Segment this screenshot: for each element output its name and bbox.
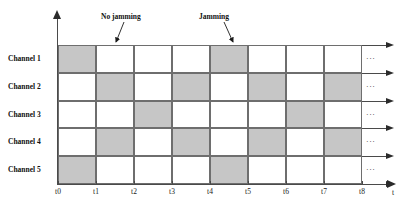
grid-cell-idle [248,101,286,129]
grid-cell-idle [96,156,134,184]
grid-cell-idle [96,45,134,73]
grid-cell-idle [248,45,286,73]
row-ellipsis: ··· [366,83,376,91]
y-axis-arrow-icon [53,10,61,19]
row-continuation-line [362,73,387,74]
grid-cell-occupied [96,128,134,156]
grid-cell-occupied [96,73,134,101]
grid-cell-idle [286,45,324,73]
no-jamming-arrow-icon [116,22,124,42]
x-tick-label: t0 [51,188,65,196]
grid-cell-idle [248,156,286,184]
grid-row [58,73,362,101]
x-tick-mark [210,181,211,185]
grid-row [58,128,362,156]
x-tick-label: t2 [127,188,141,196]
annotation-no-jamming-label: No jamming [101,13,141,21]
grid-cell-idle [172,156,210,184]
grid-cell-idle [210,101,248,129]
x-tick-label: t4 [203,188,217,196]
x-tick-label: t1 [89,188,103,196]
grid-row [58,156,362,184]
x-tick-label: t8 [355,188,369,196]
row-continuation-arrow-icon [386,125,394,131]
grid-cell-idle [324,101,362,129]
grid-cell-idle [286,73,324,101]
x-tick-mark [134,181,135,185]
grid-cell-occupied [248,73,286,101]
x-tick-mark [58,181,59,185]
row-continuation-arrow-icon [386,153,394,159]
x-tick-mark [172,181,173,185]
grid-row [58,101,362,129]
grid-cell-idle [324,45,362,73]
annotation-jamming-label: Jamming [199,13,229,21]
grid-cell-idle [96,101,134,129]
frequency-hopping-diagram: t Channel 1Channel 2Channel 3Channel 4Ch… [0,0,409,211]
channel-label: Channel 4 [8,138,54,146]
channel-time-grid [58,45,362,184]
grid-cell-occupied [210,45,248,73]
row-continuation-arrow-icon [386,98,394,104]
grid-cell-occupied [58,156,96,184]
grid-cell-occupied [210,156,248,184]
x-tick-label: t7 [317,188,331,196]
grid-row [58,45,362,73]
row-ellipsis: ··· [366,55,376,63]
grid-cell-idle [324,156,362,184]
row-ellipsis: ··· [366,138,376,146]
grid-cell-idle [58,101,96,129]
grid-cell-idle [172,101,210,129]
grid-cell-idle [210,128,248,156]
grid-cell-idle [134,128,172,156]
x-axis-line [57,184,389,185]
x-tick-label: t5 [241,188,255,196]
grid-cell-occupied [324,128,362,156]
row-ellipsis: ··· [366,111,376,119]
row-ellipsis: ··· [366,166,376,174]
grid-cell-occupied [286,101,324,129]
grid-cell-idle [172,45,210,73]
grid-cell-idle [210,73,248,101]
grid-cell-idle [134,73,172,101]
grid-cell-occupied [172,128,210,156]
grid-cell-occupied [248,128,286,156]
row-continuation-line [362,101,387,102]
x-tick-mark [248,181,249,185]
row-continuation-arrow-icon [386,42,394,48]
row-continuation-arrow-icon [386,181,394,187]
row-continuation-line [362,45,387,46]
channel-label: Channel 2 [8,83,54,91]
grid-cell-occupied [134,101,172,129]
grid-cell-idle [58,73,96,101]
grid-cell-occupied [58,45,96,73]
x-tick-label: t6 [279,188,293,196]
grid-cell-occupied [324,73,362,101]
channel-label: Channel 5 [8,166,54,174]
x-tick-label: t3 [165,188,179,196]
x-tick-mark [324,181,325,185]
grid-cell-idle [58,128,96,156]
grid-cell-idle [134,156,172,184]
row-continuation-line [362,156,387,157]
jamming-arrow-icon [224,22,233,42]
grid-cell-occupied [172,73,210,101]
row-continuation-arrow-icon [386,70,394,76]
channel-label: Channel 3 [8,111,54,119]
x-tick-mark [286,181,287,185]
x-axis-label: t [392,188,394,197]
grid-cell-idle [286,156,324,184]
grid-cell-idle [286,128,324,156]
channel-label: Channel 1 [8,55,54,63]
grid-cell-idle [134,45,172,73]
row-continuation-line [362,128,387,129]
x-tick-mark [96,181,97,185]
row-continuation-line [362,184,387,185]
